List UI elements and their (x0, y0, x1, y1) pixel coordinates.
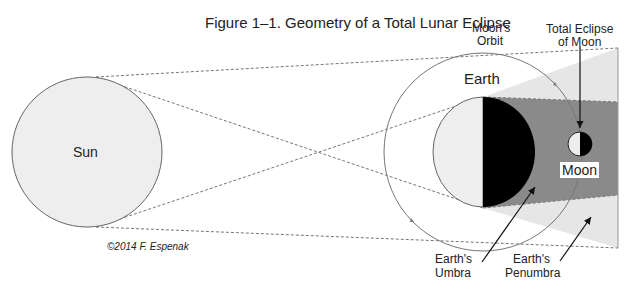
earth (433, 97, 535, 207)
total-eclipse-label-1: Total Eclipse (546, 22, 614, 36)
umbra-label-1: Earth's (435, 252, 472, 266)
credit: ©2014 F. Espenak (107, 241, 190, 252)
penumbra-label-1: Earth's (513, 252, 550, 266)
lunar-eclipse-diagram: Figure 1–1. Geometry of a Total Lunar Ec… (0, 0, 633, 289)
moon-label: Moon (562, 162, 597, 178)
sun-label: Sun (73, 144, 98, 160)
umbra-label-2: Umbra (435, 266, 471, 280)
figure-title: Figure 1–1. Geometry of a Total Lunar Ec… (205, 14, 511, 31)
moons-orbit-label-2: Orbit (477, 34, 504, 48)
earth-label: Earth (464, 70, 500, 87)
moons-orbit-label-1: Moon's (472, 21, 510, 35)
total-eclipse-label-2: of Moon (558, 35, 601, 49)
penumbra-label-2: Penumbra (505, 266, 561, 280)
moon (568, 132, 592, 156)
